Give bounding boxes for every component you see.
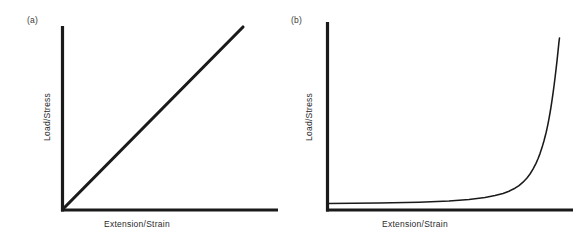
figure-root: (a) Load/Stress Extension/Strain (b) Loa…: [0, 0, 577, 239]
panel-b-y-axis-label: Load/Stress: [304, 93, 314, 141]
panel-b-plot: [289, 0, 577, 239]
panel-a-y-axis-label: Load/Stress: [42, 93, 52, 141]
panel-b-data-curve-exponential: [328, 38, 560, 204]
panel-b-x-axis-label: Extension/Strain: [382, 219, 448, 229]
panel-a-data-line-linear: [63, 27, 243, 209]
panel-b: (b) Load/Stress Extension/Strain: [289, 0, 577, 239]
panel-a: (a) Load/Stress Extension/Strain: [0, 0, 289, 239]
panel-a-x-axis-label: Extension/Strain: [104, 219, 170, 229]
